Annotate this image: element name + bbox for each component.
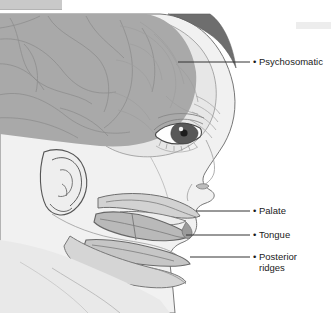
- callout-label-palate: Palate: [259, 205, 286, 216]
- callout-psychosomatic[interactable]: •Psychosomatic: [253, 56, 323, 67]
- eye-highlight: [179, 127, 183, 131]
- callout-label-psychosomatic: Psychosomatic: [259, 56, 323, 67]
- callout-label-tongue: Tongue: [259, 229, 290, 240]
- callout-tongue[interactable]: •Tongue: [253, 229, 290, 240]
- callout-palate[interactable]: •Palate: [253, 205, 286, 216]
- illustration-page: •Psychosomatic •Palate •Tongue •Posterio…: [0, 0, 331, 313]
- nostril: [196, 184, 209, 189]
- callout-posterior-ridges[interactable]: •Posterior ridges: [253, 251, 297, 273]
- callout-label-posterior-ridges: Posterior ridges: [259, 251, 297, 273]
